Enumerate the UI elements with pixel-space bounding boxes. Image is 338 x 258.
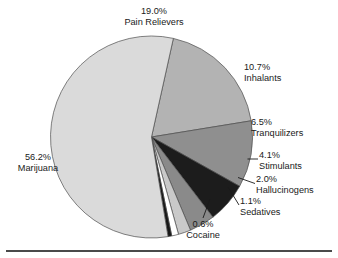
callout-percent-value: 2.0% bbox=[256, 174, 337, 185]
callout-percent-value: 6.5% bbox=[251, 117, 337, 128]
callout-percent-value: 1.1% bbox=[240, 196, 318, 207]
callout-percent-value: 0.6% bbox=[172, 219, 234, 230]
callout-percent-value: 56.2% bbox=[3, 152, 73, 163]
callout-cocaine: 0.6%Cocaine bbox=[172, 219, 234, 240]
callout-marijuana: 56.2%Marijuana bbox=[3, 152, 73, 173]
callout-category-name: Marijuana bbox=[3, 163, 73, 174]
callout-percent-value: 4.1% bbox=[259, 150, 337, 161]
callout-category-name: Pain Relievers bbox=[87, 17, 221, 28]
callout-category-name: Tranquilizers bbox=[251, 128, 337, 139]
pie-slice-group bbox=[51, 36, 253, 238]
pie-chart-figure: 19.0%Pain Relievers10.7%Inhalants6.5%Tra… bbox=[0, 0, 338, 258]
callout-stimulants: 4.1%Stimulants bbox=[259, 150, 337, 171]
callout-percent-value: 19.0% bbox=[87, 6, 221, 17]
callout-category-name: Hallucinogens bbox=[256, 185, 337, 196]
callout-sedatives: 1.1%Sedatives bbox=[240, 196, 318, 217]
callout-category-name: Sedatives bbox=[240, 207, 318, 218]
callout-category-name: Stimulants bbox=[259, 161, 337, 172]
callout-category-name: Inhalants bbox=[244, 73, 336, 84]
callout-percent-value: 10.7% bbox=[244, 62, 336, 73]
callout-tranquilizers: 6.5%Tranquilizers bbox=[251, 117, 337, 138]
callout-category-name: Cocaine bbox=[172, 230, 234, 241]
bottom-rule-divider bbox=[6, 250, 332, 252]
callout-pain-relievers: 19.0%Pain Relievers bbox=[87, 6, 221, 27]
callout-inhalants: 10.7%Inhalants bbox=[244, 62, 336, 83]
callout-hallucinogens: 2.0%Hallucinogens bbox=[256, 174, 337, 195]
